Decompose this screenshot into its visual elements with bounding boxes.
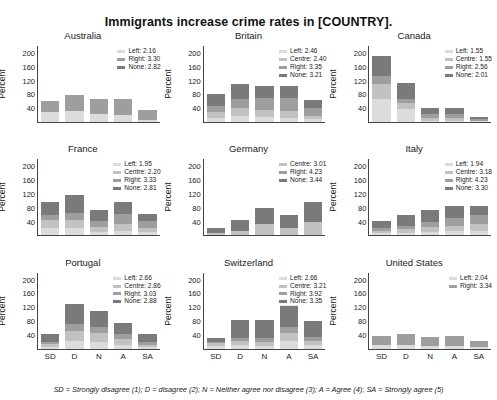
bar-d[interactable]: [397, 83, 415, 122]
legend-item[interactable]: None: 3.44: [279, 177, 326, 184]
legend-item[interactable]: Right: 3.35: [279, 64, 326, 71]
bar-sa[interactable]: [470, 206, 488, 235]
y-axis-tick: 80: [358, 317, 366, 326]
legend-item[interactable]: Right: 4.23: [445, 177, 492, 184]
bar-a[interactable]: [280, 215, 298, 235]
bar-sa[interactable]: [304, 321, 322, 349]
legend-item[interactable]: Centre: 3.21: [279, 283, 326, 290]
bar-d[interactable]: [65, 95, 83, 122]
bar-n[interactable]: [421, 108, 439, 122]
bar-sd[interactable]: [207, 94, 225, 122]
legend-item[interactable]: None: 2.88: [113, 298, 160, 305]
x-axis-tick: D: [65, 352, 83, 361]
legend-label: Centre: 2.40: [290, 56, 326, 63]
bar-a[interactable]: [114, 323, 132, 349]
legend-swatch-icon: [279, 285, 287, 288]
panel-title: Switzerland: [166, 257, 332, 268]
bar-sa[interactable]: [304, 202, 322, 235]
bar-sa[interactable]: [138, 334, 156, 349]
legend-item[interactable]: None: 2.01: [445, 72, 492, 79]
bar-a[interactable]: [445, 206, 463, 235]
bar-d[interactable]: [231, 84, 249, 122]
x-axis-ticks: SDDNASA: [369, 352, 491, 361]
bar-sa[interactable]: [470, 341, 488, 349]
bar-sd[interactable]: [41, 334, 59, 349]
bar-segment-left: [470, 121, 488, 122]
bar-segment-left: [304, 119, 322, 122]
bar-d[interactable]: [231, 320, 249, 348]
bar-a[interactable]: [114, 202, 132, 235]
legend-item[interactable]: Left: 1.55: [445, 48, 492, 55]
y-axis-label: Percent: [328, 183, 338, 212]
bar-segment-right: [470, 215, 488, 224]
legend-item[interactable]: None: 2.81: [113, 185, 160, 192]
legend-item[interactable]: Centre: 3.01: [279, 161, 326, 168]
bar-a[interactable]: [280, 305, 298, 349]
bar-n[interactable]: [421, 337, 439, 349]
bar-n[interactable]: [255, 320, 273, 349]
bar-n[interactable]: [255, 86, 273, 122]
bar-n[interactable]: [90, 311, 108, 349]
bar-sa[interactable]: [304, 100, 322, 122]
legend-item[interactable]: Left: 2.66: [279, 275, 326, 282]
legend-item[interactable]: Centre: 1.55: [445, 56, 492, 63]
bar-sd[interactable]: [372, 336, 390, 349]
y-axis-tick: 40: [192, 104, 200, 113]
legend-item[interactable]: Left: 2.16: [117, 48, 160, 55]
legend-item[interactable]: Centre: 2.86: [113, 283, 160, 290]
legend-swatch-icon: [279, 163, 287, 166]
bar-segment-none: [65, 195, 83, 212]
legend-item[interactable]: Centre: 3.18: [445, 169, 492, 176]
bar-a[interactable]: [280, 86, 298, 122]
legend-label: Right: 4.23: [290, 169, 322, 176]
bar-sd[interactable]: [41, 202, 59, 236]
legend-item[interactable]: Right: 3.92: [279, 291, 326, 298]
bar-sa[interactable]: [138, 214, 156, 235]
bar-n[interactable]: [421, 210, 439, 236]
bar-a[interactable]: [445, 336, 463, 349]
bar-d[interactable]: [65, 304, 83, 349]
legend-item[interactable]: Right: 3.34: [449, 283, 492, 290]
legend-item[interactable]: Right: 3.33: [113, 177, 160, 184]
legend-item[interactable]: Centre: 2.40: [279, 56, 326, 63]
legend-swatch-icon: [445, 66, 453, 69]
y-axis-tick: 80: [358, 203, 366, 212]
bar-n[interactable]: [90, 99, 108, 122]
legend-item[interactable]: Right: 3.03: [113, 291, 160, 298]
legend-item[interactable]: Left: 1.94: [445, 161, 492, 168]
bar-n[interactable]: [90, 210, 108, 235]
bar-d[interactable]: [65, 195, 83, 235]
legend-item[interactable]: Left: 2.66: [113, 275, 160, 282]
bar-sd[interactable]: [372, 221, 390, 235]
bar-d[interactable]: [397, 215, 415, 235]
bar-sa[interactable]: [138, 110, 156, 122]
bar-sd[interactable]: [207, 338, 225, 349]
legend-item[interactable]: Left: 2.46: [279, 48, 326, 55]
legend-item[interactable]: None: 3.35: [279, 298, 326, 305]
bar-sd[interactable]: [41, 101, 59, 122]
bar-sd[interactable]: [372, 56, 390, 122]
bar-d[interactable]: [231, 220, 249, 235]
bar-a[interactable]: [114, 99, 132, 122]
legend-item[interactable]: None: 3.30: [445, 185, 492, 192]
y-axis-tick: 120: [188, 189, 201, 198]
bar-segment-none: [421, 210, 439, 222]
legend-item[interactable]: Left: 2.04: [449, 275, 492, 282]
legend-label: Right: 3.03: [124, 291, 156, 298]
bar-a[interactable]: [445, 108, 463, 122]
bar-sd[interactable]: [207, 228, 225, 236]
bar-sa[interactable]: [470, 117, 488, 123]
bar-segment-none: [138, 214, 156, 221]
legend-item[interactable]: Right: 2.56: [445, 64, 492, 71]
bar-d[interactable]: [397, 334, 415, 349]
legend-item[interactable]: Right: 3.30: [117, 56, 160, 63]
legend-item[interactable]: None: 3.21: [279, 72, 326, 79]
legend-item[interactable]: Left: 1.95: [113, 161, 160, 168]
bar-segment-none: [41, 334, 59, 342]
legend: Left: 2.66Centre: 3.21Right: 3.92None: 3…: [278, 274, 327, 307]
bar-n[interactable]: [255, 208, 273, 235]
legend-item[interactable]: Right: 4.23: [279, 169, 326, 176]
legend-item[interactable]: Centre: 2.20: [113, 169, 160, 176]
legend-item[interactable]: None: 2.82: [117, 64, 160, 71]
panel-title: Canada: [331, 30, 497, 41]
